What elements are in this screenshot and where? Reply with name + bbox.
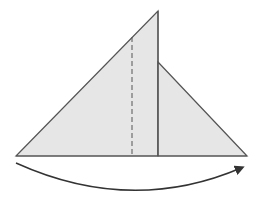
right-flap-paper bbox=[158, 62, 247, 156]
origami-diagram bbox=[0, 0, 260, 197]
fold-direction-arrow-icon bbox=[16, 163, 241, 190]
left-triangle-paper bbox=[16, 11, 158, 156]
